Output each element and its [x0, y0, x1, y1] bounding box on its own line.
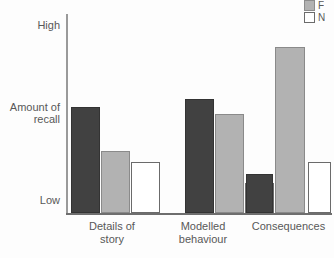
bar-details-of-story-series-f[interactable]: [101, 151, 130, 213]
bar-consequences-series-r[interactable]: [246, 174, 273, 213]
x-axis-label-modelled-behaviour: Modelled behaviour: [160, 220, 246, 246]
bar-modelled-behaviour-series-f[interactable]: [215, 114, 244, 213]
x-axis-label-consequences: Consequences: [243, 220, 334, 233]
legend-item-filmed[interactable]: F: [304, 0, 324, 11]
x-axis-label-details-of-story: Details of story: [72, 220, 152, 246]
bar-modelled-behaviour-series-r[interactable]: [185, 99, 214, 213]
y-axis-label-high: High: [37, 19, 66, 31]
bar-consequences-series-f[interactable]: [275, 47, 305, 213]
legend-swatch-gray-icon: [304, 0, 315, 11]
bar-details-of-story-series-n[interactable]: [131, 162, 160, 213]
y-axis-label-low: Low: [40, 194, 66, 206]
legend-label-gray: F: [318, 0, 324, 11]
x-axis-line: [66, 213, 332, 215]
plot-area: [66, 14, 332, 213]
bar-consequences-series-n[interactable]: [308, 162, 331, 213]
bar-details-of-story-series-r[interactable]: [71, 107, 100, 213]
bar-chart: F N High Amount of recall Low Details of…: [0, 0, 334, 258]
y-axis-label-amount-of-recall: Amount of recall: [10, 101, 66, 125]
